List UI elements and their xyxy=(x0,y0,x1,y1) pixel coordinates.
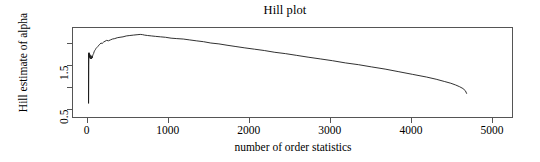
y-axis-label: Hill estimate of alpha xyxy=(17,0,30,128)
x-tick-mark xyxy=(330,118,331,123)
x-tick-label: 5000 xyxy=(469,124,515,137)
x-tick-mark xyxy=(411,118,412,123)
x-axis-label: number of order statistics xyxy=(72,141,514,154)
x-tick-label: 4000 xyxy=(388,124,434,137)
curve-polyline xyxy=(89,34,467,103)
hill-plot-figure: Hill plot Hill estimate of alpha 0100020… xyxy=(0,0,540,162)
x-tick-mark xyxy=(492,118,493,123)
x-tick-label: 3000 xyxy=(307,124,353,137)
y-tick-mark xyxy=(67,43,72,44)
x-tick-label: 1000 xyxy=(145,124,191,137)
x-tick-mark xyxy=(168,118,169,123)
x-tick-mark xyxy=(249,118,250,123)
x-tick-label: 2000 xyxy=(226,124,272,137)
plot-panel xyxy=(72,27,513,118)
y-tick-label: 1.5 xyxy=(58,65,71,129)
x-tick-mark xyxy=(87,118,88,123)
chart-title: Hill plot xyxy=(45,3,525,18)
hill-estimate-curve xyxy=(73,28,514,119)
